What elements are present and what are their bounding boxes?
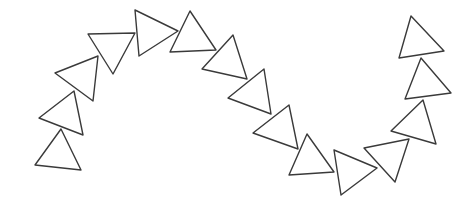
triangle-1 bbox=[35, 129, 81, 170]
triangle-15 bbox=[399, 16, 444, 58]
triangle-13 bbox=[391, 100, 436, 144]
triangle-3 bbox=[55, 56, 98, 101]
triangle-9 bbox=[253, 105, 298, 149]
triangle-12 bbox=[364, 139, 409, 182]
triangle-11 bbox=[334, 150, 377, 195]
triangle-14 bbox=[405, 58, 451, 99]
triangle-wave-diagram bbox=[0, 0, 475, 210]
triangle-chain bbox=[35, 10, 451, 195]
